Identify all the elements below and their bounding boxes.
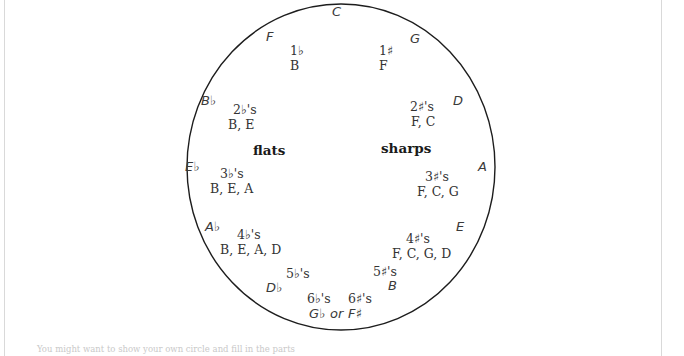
count-6-flats: 6♭'s [307,292,331,305]
letters-4-flats: B, E, A, D [220,243,281,256]
side-title-sharps: sharps [381,141,431,155]
page-margin-rule-left [4,0,5,356]
count-4-flats: 4♭'s [237,228,261,241]
letters-1-flat: B [290,59,299,72]
count-5-sharps: 5♯'s [373,265,397,278]
key-label-a: A [478,160,487,174]
count-5-flats: 5♭'s [286,267,310,280]
count-6-sharps: 6♯'s [348,292,372,305]
letters-4-sharps: F, C, G, D [392,247,451,260]
key-label-e-flat: E♭ [185,160,200,174]
diagram-page: C F 1♭ B B♭ 2♭'s B, E flats E♭ 3♭'s B, E… [0,0,684,356]
letters-2-flats: B, E [228,118,254,131]
page-margin-rule-right [661,0,662,356]
count-1-flat: 1♭ [290,44,304,57]
letters-3-sharps: F, C, G [417,185,459,198]
circle-of-fifths: C F 1♭ B B♭ 2♭'s B, E flats E♭ 3♭'s B, E… [185,2,497,332]
letters-3-flats: B, E, A [210,182,253,195]
key-label-b: B [388,279,397,293]
key-label-g-flat-f-sharp: G♭ or F♯ [309,307,362,321]
letters-1-sharp: F [379,59,388,72]
letters-2-sharps: F, C [411,115,435,128]
key-label-f: F [266,30,274,44]
count-1-sharp: 1♯ [379,44,393,57]
key-label-g: G [410,32,420,46]
key-label-d-flat: D♭ [266,281,283,295]
count-4-sharps: 4♯'s [406,232,430,245]
key-label-e: E [456,220,464,234]
count-3-flats: 3♭'s [220,167,244,180]
key-label-c: C [332,5,341,19]
key-label-b-flat: B♭ [201,94,216,108]
count-2-sharps: 2♯'s [410,100,434,113]
side-title-flats: flats [253,143,285,157]
count-2-flats: 2♭'s [233,103,257,116]
key-label-d: D [453,94,463,108]
count-3-sharps: 3♯'s [425,170,449,183]
bottom-caption-text: You might want to show your own circle a… [37,344,295,354]
key-label-a-flat: A♭ [205,220,220,234]
